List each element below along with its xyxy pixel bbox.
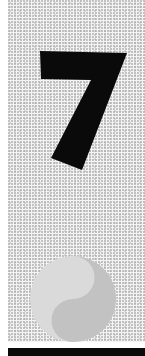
yin-yang-icon	[30, 256, 116, 342]
footer-bar	[8, 348, 145, 356]
